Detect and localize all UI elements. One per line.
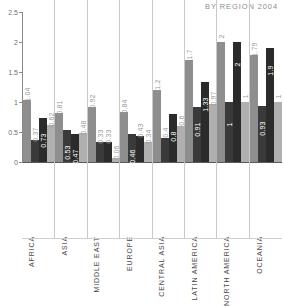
bar-item[interactable]: 0.6 <box>177 12 185 162</box>
category-cell: EUROPE <box>120 166 153 238</box>
y-tick-mark <box>19 162 23 163</box>
bar-value-label: 0.47 <box>72 149 79 163</box>
bar-value-label: 0.43 <box>137 123 144 137</box>
bar-value-label: 0.8 <box>169 131 176 141</box>
bar-item[interactable]: 1.33 <box>201 12 209 162</box>
bar[interactable] <box>201 82 209 162</box>
bar-item[interactable]: 0.97 <box>209 12 217 162</box>
bar[interactable] <box>23 100 31 162</box>
bar-value-label: 1 <box>226 122 233 126</box>
bar[interactable] <box>31 140 39 162</box>
category-label: EUROPE <box>126 236 133 271</box>
bar-item[interactable]: 0.33 <box>96 12 104 162</box>
bar-item[interactable]: 0.91 <box>193 12 201 162</box>
bar[interactable] <box>177 126 185 162</box>
category-label: LATIN AMERICA <box>191 236 198 300</box>
bar[interactable] <box>225 102 233 162</box>
y-tick-label: 0.5 <box>8 129 18 136</box>
bar-item[interactable]: 0.48 <box>79 12 87 162</box>
category-cell: MIDDLE EAST <box>87 166 120 238</box>
y-tick-label: 2.5 <box>8 9 18 16</box>
bar-value-label: 1.33 <box>201 97 208 111</box>
y-tick-label: 0 <box>14 159 18 166</box>
bar-value-label: 0.33 <box>104 129 111 143</box>
category-cell: ASIA <box>55 166 88 238</box>
bar[interactable] <box>136 136 144 162</box>
bar[interactable] <box>161 138 169 162</box>
bar[interactable] <box>120 112 128 162</box>
bar-item[interactable]: 0.53 <box>63 12 71 162</box>
bar[interactable] <box>55 113 63 162</box>
category-label: NORTH AMERICA <box>223 236 230 306</box>
bar-groups: 1.040.370.730.620.810.530.470.480.920.33… <box>23 12 282 162</box>
category-labels: AFRICAASIAMIDDLE EASTEUROPECENTRAL ASIAL… <box>22 166 282 238</box>
bar-item[interactable]: 0.92 <box>88 12 96 162</box>
y-tick-label: 1.5 <box>8 69 18 76</box>
bar-group: 0.810.530.470.48 <box>55 12 87 162</box>
category-label: AFRICA <box>28 236 35 267</box>
bar-value-label: 0.97 <box>209 91 216 105</box>
category-cell: LATIN AMERICA <box>185 166 218 238</box>
bar[interactable] <box>209 104 217 162</box>
bar[interactable] <box>88 107 96 162</box>
bar-value-label: 1.79 <box>250 42 257 56</box>
bar-item[interactable]: 1.7 <box>185 12 193 162</box>
bar-item[interactable]: 1.9 <box>266 12 274 162</box>
bar-item[interactable]: 0.84 <box>120 12 128 162</box>
bar-value-label: 0.06 <box>112 146 119 160</box>
bar-item[interactable]: 0.62 <box>47 12 55 162</box>
bottom-rule <box>22 238 282 239</box>
bar-group: 1.70.911.330.97 <box>185 12 217 162</box>
bar-item[interactable]: 0.47 <box>71 12 79 162</box>
bar[interactable] <box>241 102 249 162</box>
y-tick-label: 2 <box>14 39 18 46</box>
bar[interactable] <box>233 42 241 162</box>
bar[interactable] <box>144 142 152 162</box>
y-tick-label: 1 <box>14 99 18 106</box>
bar-item[interactable]: 0.73 <box>39 12 47 162</box>
bar-item[interactable]: 1 <box>241 12 249 162</box>
bar-item[interactable]: 0.81 <box>55 12 63 162</box>
bar-value-label: 0.53 <box>64 145 71 159</box>
bar-value-label: 0.48 <box>80 120 87 134</box>
bar-value-label: 0.92 <box>88 94 95 108</box>
bar[interactable] <box>153 90 161 162</box>
bar[interactable] <box>79 133 87 162</box>
bar-value-label: 0.93 <box>258 121 265 135</box>
bar[interactable] <box>47 125 55 162</box>
bar-item[interactable]: 0.06 <box>112 12 120 162</box>
bar-value-label: 1 <box>242 94 249 98</box>
bar-item[interactable]: 0.34 <box>144 12 152 162</box>
bar-item[interactable]: 2 <box>217 12 225 162</box>
bar-value-label: 0.34 <box>145 129 152 143</box>
bar[interactable] <box>217 42 225 162</box>
category-cell: NORTH AMERICA <box>217 166 250 238</box>
bar-group: 0.840.460.430.34 <box>120 12 152 162</box>
bar-item[interactable]: 1 <box>274 12 282 162</box>
bar-item[interactable]: 1.2 <box>153 12 161 162</box>
bar-item[interactable]: 1.04 <box>23 12 31 162</box>
bar-item[interactable]: 0.33 <box>104 12 112 162</box>
bar-item[interactable]: 0.93 <box>258 12 266 162</box>
bar-item[interactable]: 0.8 <box>169 12 177 162</box>
bar-item[interactable]: 0.46 <box>128 12 136 162</box>
bar[interactable] <box>185 60 193 162</box>
bar-value-label: 1.04 <box>24 87 31 101</box>
bar-group: 1.20.40.80.6 <box>153 12 185 162</box>
bar[interactable] <box>274 102 282 162</box>
bar[interactable] <box>250 55 258 162</box>
bar-item[interactable]: 0.37 <box>31 12 39 162</box>
bar[interactable] <box>104 142 112 162</box>
bar-value-label: 0.73 <box>40 133 47 147</box>
bar-value-label: 0.91 <box>193 123 200 137</box>
bar-item[interactable]: 1 <box>225 12 233 162</box>
bar-value-label: 0.81 <box>56 101 63 115</box>
bar[interactable] <box>96 142 104 162</box>
bar-item[interactable]: 0.4 <box>161 12 169 162</box>
bar-item[interactable]: 2 <box>233 12 241 162</box>
bar-item[interactable]: 0.43 <box>136 12 144 162</box>
bar-value-label: 0.84 <box>121 99 128 113</box>
bar-item[interactable]: 1.79 <box>250 12 258 162</box>
bar-value-label: 0.6 <box>177 115 184 125</box>
